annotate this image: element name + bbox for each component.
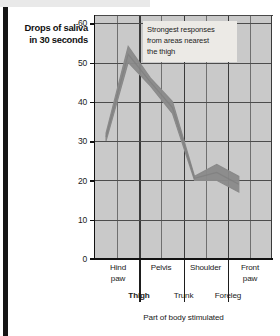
y-tick-label-50: 50	[60, 58, 87, 68]
x-label-front-paw-line1: Front	[228, 263, 272, 274]
page-gutter-bar	[3, 7, 8, 336]
x-label-hind-paw-line2: paw	[97, 274, 139, 285]
y-tick-label-30: 30	[60, 136, 87, 146]
y-tick-label-0: 0	[60, 254, 87, 264]
y-tick-mark-40	[90, 102, 94, 104]
x-label-thigh: Thigh	[118, 291, 160, 302]
x-label-front-paw: Front paw	[228, 263, 272, 284]
plot-border-top	[95, 15, 273, 16]
x-label-trunk: Trunk	[162, 291, 205, 302]
y-tick-mark-30	[90, 141, 94, 143]
plot-border-right	[271, 15, 272, 259]
annotation-line1: Strongest responses	[147, 24, 233, 35]
x-label-pelvis: Pelvis	[139, 263, 183, 274]
x-label-front-paw-line2: paw	[228, 274, 272, 285]
annotation-line2: from areas nearest	[147, 35, 233, 46]
y-tick-mark-10	[90, 220, 94, 222]
y-tick-mark-60	[90, 23, 94, 25]
y-axis-line	[94, 15, 96, 260]
y-tick-mark-20	[90, 180, 94, 182]
annotation-callout: Strongest responses from areas nearest t…	[143, 21, 237, 62]
x-label-hind-paw-line1: Hind	[97, 263, 139, 274]
x-axis-title: Part of body stimulated	[95, 313, 272, 322]
y-tick-label-10: 10	[60, 215, 87, 225]
y-tick-mark-50	[90, 63, 94, 65]
y-tick-label-60: 60	[60, 18, 87, 28]
x-label-foreleg: Foreleg	[206, 291, 250, 302]
chart-figure: Drops of saliva in 30 seconds Strongest …	[0, 0, 280, 336]
x-label-hind-paw: Hind paw	[97, 263, 139, 284]
y-tick-label-20: 20	[60, 176, 87, 186]
y-axis-title-line2: in 30 seconds	[14, 34, 88, 46]
y-tick-label-40: 40	[60, 97, 87, 107]
x-label-shoulder: Shoulder	[183, 263, 228, 274]
scan-edge-strip-white	[150, 0, 280, 7]
annotation-line3: the thigh	[147, 46, 233, 57]
